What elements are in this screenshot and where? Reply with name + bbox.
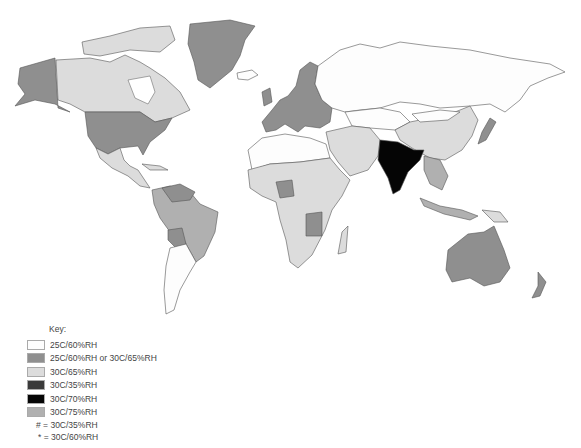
legend-item-30c-65rh: 30C/65%RH (27, 365, 157, 378)
legend-label: 30C/65%RH (50, 367, 97, 377)
legend-label: 30C/35%RH (50, 380, 97, 390)
region-mexico (96, 148, 150, 188)
region-new-zealand (532, 272, 546, 298)
region-russia (315, 42, 565, 112)
legend-swatch (27, 394, 45, 404)
region-caribbean (142, 164, 168, 170)
region-japan (478, 118, 496, 144)
map-legend: Key: 25C/60%RH 25C/60%RH or 30C/65%RH 30… (27, 324, 157, 443)
legend-swatch (27, 367, 45, 377)
legend-note-asterisk: * = 30C/60%RH (38, 431, 157, 443)
legend-swatch (27, 353, 45, 363)
region-zambia (306, 212, 322, 236)
legend-item-30c-35rh: 30C/35%RH (27, 379, 157, 392)
legend-item-30c-75rh: 30C/75%RH (27, 406, 157, 419)
region-new-guinea (482, 210, 508, 222)
region-sub-saharan-africa (248, 158, 350, 268)
legend-item-30c-70rh: 30C/70%RH (27, 392, 157, 405)
legend-label: 25C/60%RH or 30C/65%RH (50, 353, 157, 363)
world-map (0, 0, 581, 330)
legend-item-25c-60rh: 25C/60%RH (27, 338, 157, 351)
region-australia (446, 226, 510, 286)
region-southeast-asia (424, 156, 448, 190)
legend-swatch (27, 340, 45, 350)
region-madagascar (338, 226, 348, 254)
legend-label: 30C/70%RH (50, 394, 97, 404)
legend-item-25c-60rh-or-30c-65rh: 25C/60%RH or 30C/65%RH (27, 352, 157, 365)
region-uk (262, 88, 272, 106)
legend-label: 30C/75%RH (50, 407, 97, 417)
legend-swatch (27, 407, 45, 417)
legend-swatch (27, 380, 45, 390)
region-indonesia (420, 198, 478, 220)
legend-note-hash: # = 30C/35%RH (36, 419, 157, 431)
legend-title: Key: (49, 324, 157, 335)
legend-label: 25C/60%RH (50, 340, 97, 350)
region-arctic-islands (82, 26, 175, 56)
region-southern-cone (164, 244, 196, 314)
region-iceland (237, 70, 258, 80)
